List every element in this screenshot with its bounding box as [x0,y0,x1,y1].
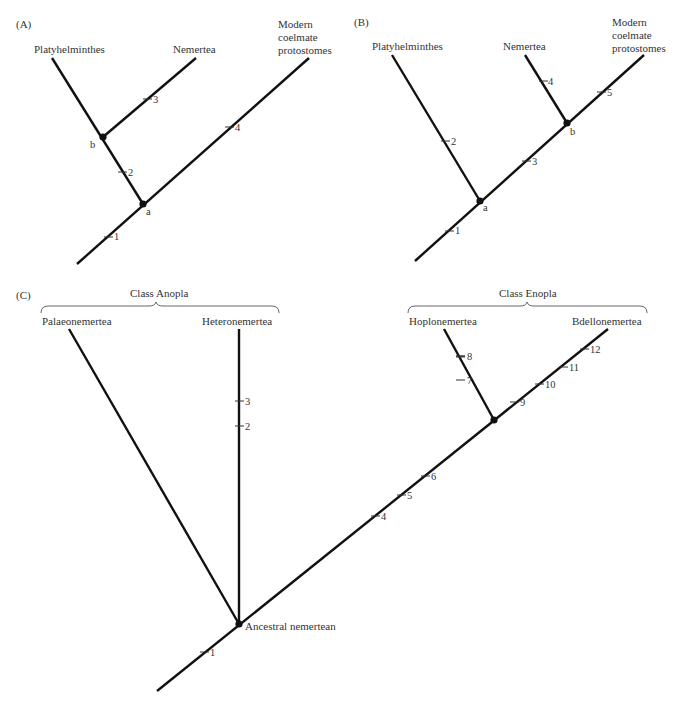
character-10: 10 [545,379,556,390]
taxon-heteronemertea: Heteronemertea [202,315,272,327]
panel-c-label: (C) [16,289,31,302]
panel-b: (B) Platyhelminthes Nemertea Modern coel… [354,16,666,261]
group-enopla-label: Class Enopla [499,287,557,299]
panel-a-label: (A) [16,18,32,31]
character-2: 2 [245,421,250,432]
taxon-palaeonemertea: Palaeonemertea [42,315,112,327]
character-9: 9 [520,397,525,408]
character-5: 5 [407,490,412,501]
character-7: 8 [467,351,472,362]
character-3: 3 [245,396,250,407]
node-a-label: a [146,206,151,217]
taxon-nemertea: Nemertea [173,43,216,55]
character-12: 12 [590,344,601,355]
taxon-hoplonemertea: Hoplonemertea [409,315,477,327]
node-b [99,133,106,140]
group-anopla-label: Class Anopla [130,287,188,299]
taxon-bdellonemertea: Bdellonemertea [572,315,642,327]
character-6: 6 [431,471,436,482]
character-4: 4 [548,76,554,87]
brace-anopla [41,302,279,313]
character-11: 11 [569,362,579,373]
branch-platyhelminthes [392,55,480,201]
cladogram-figure: (A) Platyhelminthes Nemertea Modern coel… [0,0,683,718]
character-3: 3 [532,156,537,167]
branch-main [157,329,608,691]
character-2: 2 [128,167,133,178]
node-a-label: a [483,202,488,213]
taxon-platyhelminthes: Platyhelminthes [34,43,105,55]
taxon-nemertea: Nemertea [503,40,546,52]
branch-main [77,58,309,264]
character-1: 1 [114,231,119,242]
character-4: 4 [235,122,241,133]
character-1: 1 [210,647,215,658]
branch-platyhelminthes [52,58,143,204]
node-enopla [490,416,497,423]
character-4: 4 [381,511,387,522]
panel-c: (C) Class Anopla Class Enopla Palaeoneme… [16,287,647,691]
taxon-modern-line2: coelmate [278,31,318,43]
brace-enopla [408,302,647,313]
taxon-modern-line1: Modern [278,18,313,30]
panel-a: (A) Platyhelminthes Nemertea Modern coel… [16,18,332,264]
taxon-modern-line3: protostomes [612,42,666,54]
character-5: 5 [607,87,612,98]
character-3: 3 [153,94,158,105]
branch-main [415,55,644,261]
branch-nemertea [103,58,196,137]
panel-b-label: (B) [354,16,369,29]
root-label: Ancestral nemertean [245,620,336,632]
branch-palaeonemertea [69,329,239,624]
character-7-label: 7 [467,375,472,386]
character-1: 1 [455,225,460,236]
taxon-modern-line2: coelmate [612,29,652,41]
taxon-modern-line1: Modern [612,16,647,28]
node-ancestral [235,620,242,627]
taxon-platyhelminthes: Platyhelminthes [372,40,443,52]
branch-nemertea [525,55,567,123]
character-2: 2 [451,136,456,147]
node-b-label: b [90,139,95,150]
taxon-modern-line3: protostomes [278,44,332,56]
node-b-label: b [570,126,575,137]
